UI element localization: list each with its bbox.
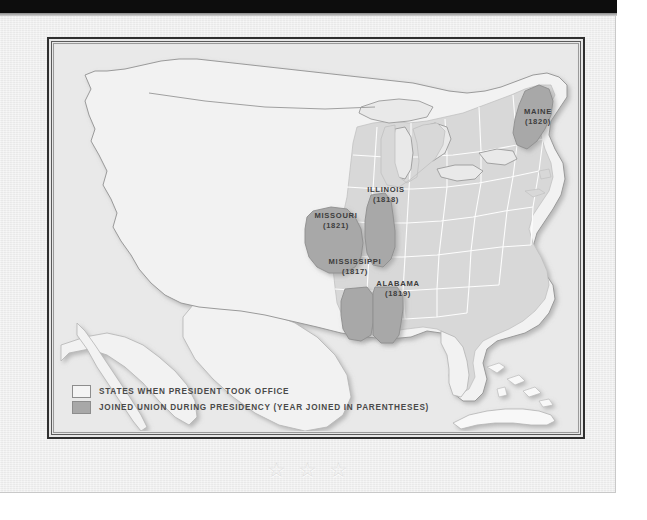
state-illinois[interactable] (365, 193, 395, 267)
top-black-bar (0, 0, 617, 13)
state-missouri[interactable] (305, 207, 363, 273)
map-frame: Maine (1820) Illinois (1818) Missouri (1… (47, 37, 585, 439)
star-icon-3: ☆ (329, 459, 348, 480)
state-mississippi[interactable] (341, 287, 373, 341)
legend-item-existing-states: States when President took office (72, 385, 429, 398)
map-canvas[interactable]: Maine (1820) Illinois (1818) Missouri (1… (55, 45, 577, 431)
document-page: Maine (1820) Illinois (1818) Missouri (1… (0, 16, 616, 493)
screenshot-root: Maine (1820) Illinois (1818) Missouri (1… (0, 0, 647, 520)
star-icon-2: ☆ (298, 459, 317, 480)
us-map-svg (55, 45, 577, 431)
star-icon-1: ☆ (267, 459, 286, 480)
star-decoration: ☆ ☆ ☆ (0, 459, 615, 481)
legend-label-joined-union: Joined Union during presidency (year joi… (99, 403, 429, 412)
legend-swatch-existing-states (72, 385, 91, 398)
legend-swatch-joined-union (72, 401, 91, 414)
legend-item-joined-union: Joined Union during presidency (year joi… (72, 401, 429, 414)
state-alabama[interactable] (373, 287, 403, 343)
map-legend: States when President took office Joined… (72, 385, 429, 417)
legend-label-existing-states: States when President took office (99, 387, 289, 396)
